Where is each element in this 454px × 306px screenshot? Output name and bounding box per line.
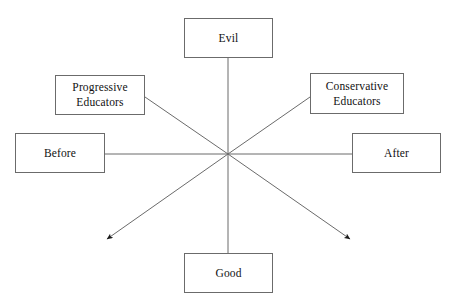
node-before-label: Before: [40, 146, 80, 161]
connector-lower-right-arrow: [228, 154, 350, 239]
node-conservative-educators-label: Conservative Educators: [322, 79, 392, 108]
connector-lower-left-arrow: [107, 154, 228, 239]
node-conservative-educators: Conservative Educators: [310, 73, 404, 114]
connector-progressive-axis: [145, 97, 228, 154]
diagram-canvas: Evil Good Before After Progressive Educa…: [0, 0, 454, 306]
node-before: Before: [15, 133, 105, 173]
node-good-label: Good: [211, 266, 245, 281]
node-evil: Evil: [184, 18, 273, 58]
node-after: After: [352, 133, 441, 173]
node-progressive-educators-label: Progressive Educators: [68, 80, 131, 109]
node-progressive-educators: Progressive Educators: [55, 75, 145, 115]
connector-conservative-axis: [228, 97, 310, 154]
node-evil-label: Evil: [215, 31, 243, 46]
node-after-label: After: [380, 146, 413, 161]
node-good: Good: [184, 253, 273, 293]
